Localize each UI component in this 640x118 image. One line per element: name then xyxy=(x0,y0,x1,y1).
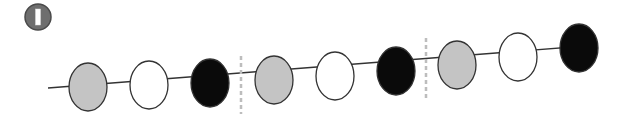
badge-numeral-bar xyxy=(36,9,41,25)
circle-groups xyxy=(69,24,598,111)
gray-circle xyxy=(438,41,476,89)
white-circle xyxy=(316,52,354,100)
roman-numeral-badge xyxy=(25,4,51,30)
gray-circle xyxy=(255,56,293,104)
white-circle xyxy=(499,33,537,81)
white-circle xyxy=(130,61,168,109)
circle-group-1 xyxy=(69,59,229,111)
sequence-diagram xyxy=(0,0,640,118)
circle-group-3 xyxy=(438,24,598,89)
circle-group-2 xyxy=(255,47,415,104)
black-circle xyxy=(560,24,598,72)
black-circle xyxy=(377,47,415,95)
gray-circle xyxy=(69,63,107,111)
black-circle xyxy=(191,59,229,107)
